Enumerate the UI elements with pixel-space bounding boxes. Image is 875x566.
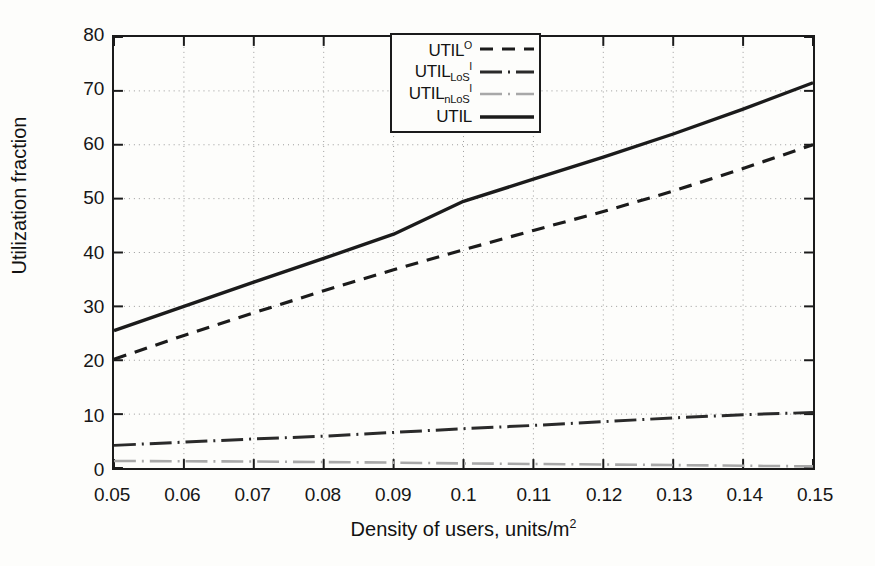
y-tick-label: 40 bbox=[83, 242, 104, 264]
y-tick-label: 70 bbox=[83, 78, 104, 100]
legend-item-label: UTILLoSI bbox=[415, 61, 472, 83]
legend-item: UTILnLoSI bbox=[394, 83, 535, 105]
x-tick-label: 0.12 bbox=[586, 484, 622, 506]
legend-line-sample bbox=[479, 110, 535, 124]
x-axis-tick-labels: 0.050.060.070.080.090.10.110.120.130.140… bbox=[112, 484, 815, 510]
x-tick-label: 0.05 bbox=[94, 484, 130, 506]
legend-item: UTIL bbox=[394, 106, 535, 128]
y-tick-label: 80 bbox=[83, 24, 104, 46]
chart-figure: Utilization fraction 01020304050607080 0… bbox=[0, 0, 875, 566]
x-tick-label: 0.1 bbox=[451, 484, 477, 506]
series-line bbox=[114, 413, 813, 446]
y-axis-title: Utilization fraction bbox=[8, 31, 31, 361]
x-axis-title: Density of users, units/m2 bbox=[112, 517, 815, 541]
x-tick-label: 0.07 bbox=[235, 484, 271, 506]
x-tick-label: 0.06 bbox=[164, 484, 200, 506]
x-axis-title-text: Density of users, units/m bbox=[351, 518, 570, 540]
x-tick-label: 0.15 bbox=[797, 484, 833, 506]
y-tick-label: 20 bbox=[83, 350, 104, 372]
legend-item-label: UTILO bbox=[428, 40, 472, 59]
legend-line-sample bbox=[479, 42, 535, 56]
x-tick-label: 0.14 bbox=[727, 484, 763, 506]
legend-item: UTILLoSI bbox=[394, 61, 535, 83]
legend-item: UTILO bbox=[394, 38, 535, 60]
legend-item-label: UTIL bbox=[436, 108, 472, 125]
y-tick-label: 10 bbox=[83, 405, 104, 427]
y-tick-label: 50 bbox=[83, 187, 104, 209]
y-tick-label: 30 bbox=[83, 296, 104, 318]
legend-line-sample bbox=[479, 87, 535, 101]
legend-item-label: UTILnLoSI bbox=[409, 83, 472, 105]
x-tick-label: 0.09 bbox=[375, 484, 411, 506]
series-line bbox=[114, 145, 813, 359]
x-tick-label: 0.11 bbox=[516, 484, 551, 506]
y-tick-label: 0 bbox=[94, 459, 104, 481]
x-tick-label: 0.08 bbox=[305, 484, 341, 506]
x-axis-title-exponent: 2 bbox=[570, 517, 577, 531]
x-tick-label: 0.13 bbox=[656, 484, 692, 506]
legend-line-sample bbox=[479, 65, 535, 79]
series-line bbox=[114, 461, 813, 466]
y-tick-label: 60 bbox=[83, 133, 104, 155]
legend: UTILOUTILLoSIUTILnLoSIUTIL bbox=[390, 33, 541, 133]
y-axis-tick-labels: 01020304050607080 bbox=[60, 35, 104, 470]
